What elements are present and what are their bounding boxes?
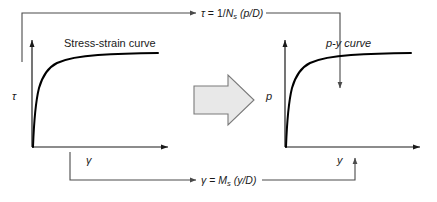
top-relation-formula: τ = 1/Ns (p/D): [198, 8, 266, 19]
diagram-vector-layer: [0, 0, 437, 202]
bottom-relation-coefficient: M: [218, 174, 227, 186]
top-relation-term: (p/D): [240, 7, 263, 19]
left-chart-axes: [32, 40, 168, 147]
left-chart-curve: [33, 53, 158, 147]
top-relation-subscript: s: [233, 12, 237, 21]
left-chart-y-axis-label: τ: [12, 91, 16, 102]
bottom-relation-subscript: s: [227, 179, 231, 188]
bottom-relation-formula: γ = Ms (y/D): [198, 175, 259, 186]
transformation-diagram: Stress-strain curve τ γ p-y curve p y τ …: [0, 0, 437, 202]
right-chart-curve: [286, 53, 411, 147]
right-chart-axes: [285, 40, 420, 147]
top-relation-numerator: 1/: [217, 7, 226, 19]
block-arrow-right-icon: [194, 75, 254, 125]
left-chart-x-axis-label: γ: [86, 155, 92, 166]
top-connector-line: [22, 13, 340, 88]
right-chart-title: p-y curve: [326, 38, 371, 49]
right-chart-y-axis-label: p: [266, 91, 272, 102]
right-chart-x-axis-label: y: [337, 155, 343, 166]
bottom-relation-term: (y/D): [234, 174, 257, 186]
left-chart-title: Stress-strain curve: [64, 38, 156, 49]
